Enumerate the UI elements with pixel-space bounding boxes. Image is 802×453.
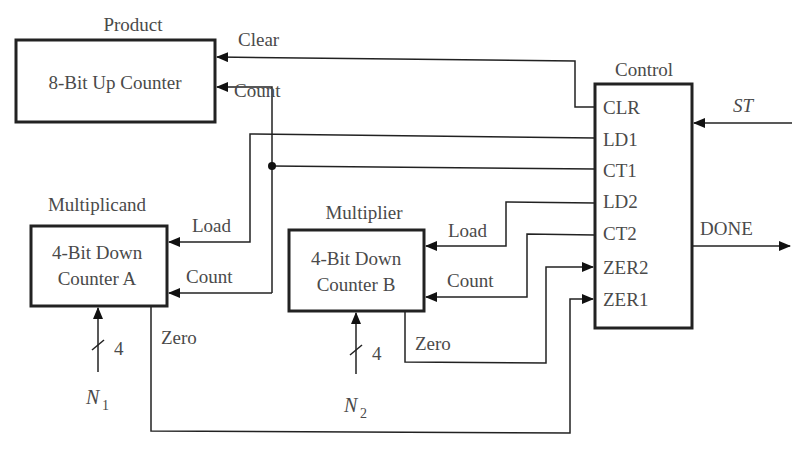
counter-b-block: Multiplier 4-Bit Down Counter B [289,202,424,311]
st-signal: ST [694,95,792,123]
ct1-signal [268,162,595,170]
load-a-signal: Load [169,134,595,242]
pin-ct2: CT2 [603,223,637,244]
bus-width-b: 4 [372,343,382,364]
n1-subscript: 1 [102,398,109,413]
load-a-label: Load [192,215,232,236]
zero-b-signal: Zero [405,267,593,363]
n1-input: 4 N 1 [85,308,124,413]
counter-a-block: Multiplicand 4-Bit Down Counter A [31,194,167,306]
counter-b-line2: Counter B [317,274,396,295]
zero-a-signal: Zero [151,299,593,433]
control-block: Control CLR LD1 CT1 LD2 CT2 ZER2 ZER1 [595,59,692,328]
clear-label: Clear [238,29,280,50]
product-block: Product 8-Bit Up Counter [16,14,215,122]
done-signal: DONE [692,218,790,246]
count-a-label: Count [186,266,233,287]
count-product-label: Count [234,80,281,101]
n1-label: N [85,386,101,408]
product-label: 8-Bit Up Counter [49,72,183,93]
zero-b-label: Zero [415,333,451,354]
junction-dot [268,162,276,170]
count-a-signal: Count [169,266,272,293]
counter-b-box [289,230,424,311]
counter-b-title: Multiplier [325,202,403,223]
count-b-signal: Count [426,234,595,297]
st-label: ST [733,95,755,116]
count-b-label: Count [447,270,494,291]
done-label: DONE [700,218,753,239]
pin-zer2: ZER2 [603,257,648,278]
load-b-label: Load [448,220,488,241]
count-product-signal: Count [217,80,281,293]
pin-ct1: CT1 [603,160,637,181]
counter-a-title: Multiplicand [48,194,147,215]
n2-label: N [343,394,359,416]
pin-clr: CLR [603,97,640,118]
control-title: Control [615,59,673,80]
counter-a-box [31,226,167,306]
pin-zer1: ZER1 [603,289,648,310]
pin-ld1: LD1 [603,129,638,150]
zero-a-label: Zero [161,327,197,348]
n2-subscript: 2 [360,406,367,421]
counter-a-line2: Counter A [58,268,137,289]
block-diagram: Product 8-Bit Up Counter Control CLR LD1… [0,0,802,453]
load-b-signal: Load [426,202,595,246]
product-title: Product [103,14,163,35]
n2-input: 4 N 2 [343,313,382,421]
counter-a-line1: 4-Bit Down [52,242,143,263]
bus-width-a: 4 [114,338,124,359]
pin-ld2: LD2 [603,191,638,212]
counter-b-line1: 4-Bit Down [311,248,402,269]
